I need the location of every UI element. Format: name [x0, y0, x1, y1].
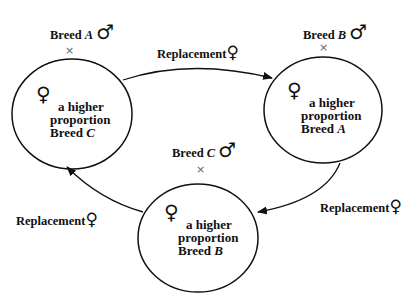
- male-icon: ♂: [96, 20, 114, 44]
- herd-text-a: ♀ a higher proportion Breed A: [287, 88, 377, 138]
- edge-label-replacement-a-to-b: Replacement♀: [320, 198, 402, 215]
- arrow-b-to-c: [67, 167, 143, 212]
- sire-label-breed-a: Breed A ♂: [50, 22, 114, 42]
- edge-label-replacement-c-to-a: Replacement♀: [157, 44, 239, 61]
- cross-symbol-c: ×: [196, 163, 205, 176]
- female-icon: ♀: [226, 42, 238, 62]
- male-icon: ♂: [349, 20, 367, 44]
- text-line: Breed C: [50, 126, 95, 139]
- sire-label-breed-b: Breed B ♂: [303, 22, 367, 42]
- cross-symbol-b: ×: [319, 41, 328, 54]
- female-icon: ♀: [36, 88, 51, 101]
- herd-text-b: ♀ a higher proportion Breed B: [164, 210, 254, 260]
- female-icon: ♀: [85, 209, 97, 229]
- female-icon: ♀: [287, 84, 302, 97]
- male-icon: ♂: [218, 138, 236, 162]
- arrow-c-to-a: [123, 68, 272, 80]
- text-line: Breed A: [301, 122, 346, 135]
- herd-text-c: ♀ a higher proportion Breed C: [36, 92, 126, 142]
- cross-symbol-a: ×: [65, 44, 74, 57]
- text-line: Breed B: [178, 244, 223, 257]
- female-icon: ♀: [164, 206, 179, 219]
- edge-label-replacement-b-to-c: Replacement♀: [16, 211, 98, 228]
- sire-label-breed-c: Breed C ♂: [172, 140, 236, 160]
- female-icon: ♀: [389, 196, 401, 216]
